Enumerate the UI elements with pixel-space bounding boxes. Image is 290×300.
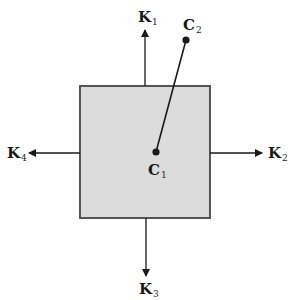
label-c2: C2 xyxy=(183,18,202,35)
force-diagram xyxy=(0,0,290,300)
label-k1: K1 xyxy=(138,10,158,27)
label-k3: K3 xyxy=(139,282,159,299)
label-k2: K2 xyxy=(268,146,288,163)
point-c2-dot xyxy=(182,36,189,43)
point-c1-dot xyxy=(152,148,159,155)
label-c1: C1 xyxy=(148,163,167,180)
label-k4: K4 xyxy=(7,146,27,163)
body-square xyxy=(80,86,210,218)
